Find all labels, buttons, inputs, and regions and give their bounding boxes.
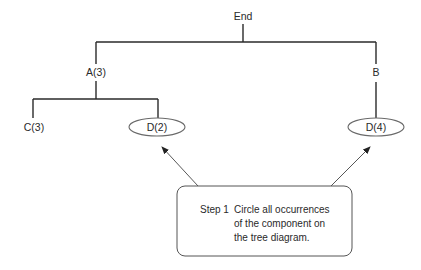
node-d4: D(4)	[366, 121, 386, 133]
node-c: C(3)	[24, 121, 44, 133]
node-end: End	[234, 10, 253, 22]
callout-line-1: Circle all occurrences	[234, 204, 330, 215]
callout-line-3: the tree diagram.	[234, 232, 310, 243]
tree-diagram: End A(3) B C(3) D(2) D(4) Step 1 Circle …	[0, 0, 421, 270]
arrow-to-d4	[331, 147, 370, 186]
callout-step-label: Step 1	[200, 204, 229, 215]
callout-line-2: of the component on	[234, 218, 325, 229]
node-d2: D(2)	[147, 121, 167, 133]
node-b: B	[372, 66, 379, 78]
arrow-to-d2	[162, 147, 198, 186]
node-a: A(3)	[86, 66, 106, 78]
